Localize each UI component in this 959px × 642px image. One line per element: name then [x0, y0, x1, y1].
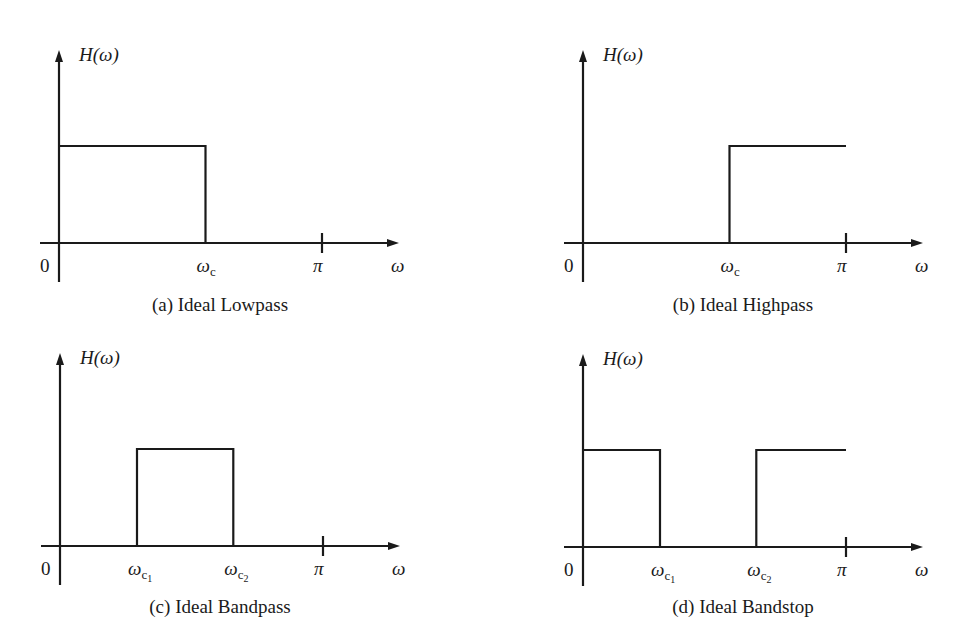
tick-label: π — [314, 558, 324, 579]
x-axis-arrow-icon — [387, 239, 399, 247]
panel-a: H(ω)0ωωcπ(a) Ideal Lowpass — [40, 44, 404, 316]
x-axis-label: ω — [392, 558, 405, 579]
y-axis-arrow-icon — [56, 353, 64, 365]
tick-label-main: π — [313, 255, 323, 276]
origin-label: 0 — [564, 255, 574, 276]
filter-response-figure: H(ω)0ωωcπ(a) Ideal LowpassH(ω)0ωωcπ(b) I… — [0, 0, 959, 642]
x-axis-label: ω — [391, 255, 404, 276]
y-axis-label: H(ω) — [78, 44, 119, 66]
origin-label: 0 — [40, 255, 50, 276]
y-axis-arrow-icon — [579, 354, 587, 366]
frequency-response-line — [730, 146, 847, 243]
tick-label: ωc2 — [224, 558, 248, 584]
x-axis-label: ω — [915, 255, 928, 276]
panel-b: H(ω)0ωωcπ(b) Ideal Highpass — [564, 44, 928, 316]
tick-label-subsubscript: 2 — [766, 574, 771, 585]
x-axis-arrow-icon — [911, 239, 923, 247]
panel-c: H(ω)0ωωc1ωc2π(c) Ideal Bandpass — [41, 347, 405, 618]
tick-label-main: ω — [128, 558, 141, 579]
frequency-response-line — [583, 450, 846, 547]
tick-label-main: π — [837, 255, 847, 276]
panel-d: H(ω)0ωωc1ωc2π(d) Ideal Bandstop — [564, 348, 928, 618]
y-axis-label: H(ω) — [602, 44, 643, 66]
y-axis-arrow-icon — [55, 50, 63, 62]
y-axis-label: H(ω) — [602, 348, 643, 370]
panel-caption: (a) Ideal Lowpass — [152, 294, 288, 316]
tick-label: ωc1 — [651, 559, 675, 585]
tick-label: π — [837, 255, 847, 276]
tick-label: π — [313, 255, 323, 276]
tick-label-subsubscript: 2 — [243, 573, 248, 584]
tick-label-subsubscript: 1 — [147, 573, 152, 584]
tick-label: ωc — [721, 255, 740, 279]
tick-label: ωc2 — [747, 559, 771, 585]
y-axis-arrow-icon — [579, 50, 587, 62]
tick-label-main: ω — [747, 559, 760, 580]
tick-label-subsubscript: 1 — [670, 574, 675, 585]
tick-label: ωc — [197, 255, 216, 279]
tick-label-main: ω — [721, 255, 734, 276]
tick-label: ωc1 — [128, 558, 152, 584]
origin-label: 0 — [41, 558, 51, 579]
y-axis-label: H(ω) — [79, 347, 120, 369]
panel-caption: (d) Ideal Bandstop — [672, 596, 813, 618]
panel-caption: (c) Ideal Bandpass — [149, 596, 290, 618]
tick-label-main: ω — [197, 255, 210, 276]
tick-label: π — [837, 559, 847, 580]
frequency-response-line — [59, 146, 206, 243]
tick-label-main: ω — [224, 558, 237, 579]
tick-label-subscript: c — [210, 264, 216, 279]
tick-label-main: ω — [651, 559, 664, 580]
frequency-response-line — [137, 449, 233, 546]
x-axis-arrow-icon — [911, 543, 923, 551]
tick-label-subscript: c — [734, 264, 740, 279]
tick-label-main: π — [314, 558, 324, 579]
x-axis-label: ω — [915, 559, 928, 580]
panel-caption: (b) Ideal Highpass — [673, 294, 813, 316]
origin-label: 0 — [564, 559, 574, 580]
x-axis-arrow-icon — [388, 542, 400, 550]
tick-label-main: π — [837, 559, 847, 580]
